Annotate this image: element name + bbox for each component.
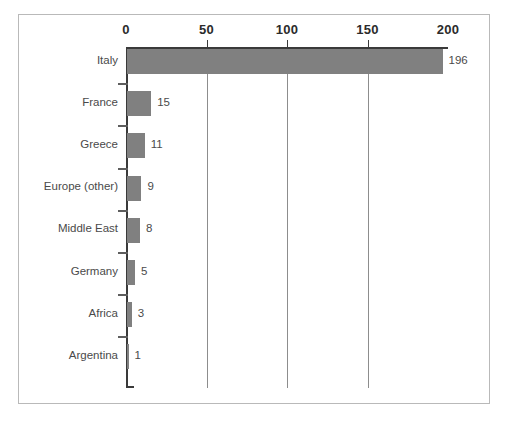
category-label: Argentina [12, 349, 118, 361]
bar [127, 218, 140, 243]
x-axis-tick-label-150: 150 [356, 22, 379, 37]
category-label: Africa [12, 307, 118, 319]
bar-value-label: 3 [138, 307, 144, 319]
axis-foot-tick [126, 386, 134, 388]
bar [127, 133, 145, 158]
category-label: France [12, 96, 118, 108]
bar [127, 302, 132, 327]
x-axis-tick-label-0: 0 [122, 22, 130, 37]
category-label: Italy [12, 54, 118, 66]
bar-value-label: 11 [151, 138, 163, 150]
category-tick-3 [118, 168, 128, 170]
bar [127, 260, 135, 285]
x-axis-tick-mark-100 [287, 40, 288, 48]
chart-page: 050100150200 Italy196France15Greece11Eur… [0, 0, 508, 421]
category-label: Germany [12, 265, 118, 277]
bar-value-label: 1 [135, 349, 141, 361]
horizontal-bar-chart: 050100150200 Italy196France15Greece11Eur… [0, 0, 508, 421]
x-axis-tick-mark-50 [207, 40, 208, 48]
gridline-150 [368, 49, 369, 388]
bar [127, 344, 129, 369]
x-axis-tick-mark-150 [368, 40, 369, 48]
bar-value-label: 9 [147, 180, 153, 192]
bar-value-label: 5 [141, 265, 147, 277]
bar-value-label: 8 [146, 222, 152, 234]
category-label: Europe (other) [12, 180, 118, 192]
bar [127, 91, 151, 116]
category-tick-2 [118, 125, 128, 127]
x-axis-tick-label-50: 50 [199, 22, 214, 37]
gridline-100 [287, 49, 288, 388]
category-tick-4 [118, 210, 128, 212]
bar [127, 176, 141, 201]
category-tick-5 [118, 252, 128, 254]
x-axis-tick-label-100: 100 [276, 22, 299, 37]
bar-value-label: 15 [157, 96, 170, 108]
category-tick-1 [118, 83, 128, 85]
bar-value-label: 196 [449, 54, 468, 66]
category-tick-7 [118, 336, 128, 338]
gridline-50 [207, 49, 208, 388]
category-label: Greece [12, 138, 118, 150]
bar [127, 49, 443, 74]
x-axis-tick-label-200: 200 [437, 22, 460, 37]
category-label: Middle East [12, 222, 118, 234]
category-tick-6 [118, 294, 128, 296]
